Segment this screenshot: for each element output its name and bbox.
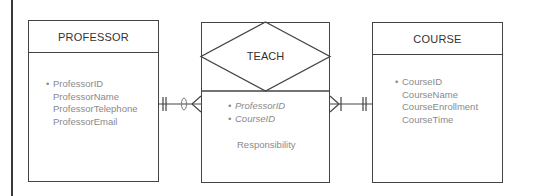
- primary-key-bullet: •: [228, 100, 231, 113]
- attribute-item: • ProfessorID: [235, 100, 285, 113]
- crows-foot-icon: [192, 96, 201, 104]
- relationship-teach-attributes: • ProfessorID • CourseID: [235, 100, 285, 125]
- relationship-teach-title: TEACH: [201, 50, 330, 62]
- crows-foot-icon: [330, 96, 339, 104]
- crows-foot-icon: [330, 104, 339, 112]
- diagram-lines: [0, 0, 540, 196]
- attribute-item: • CourseID: [235, 113, 285, 126]
- relationship-attribute-responsibility: Responsibility: [237, 139, 296, 150]
- crows-foot-icon: [192, 104, 201, 112]
- primary-key-bullet: •: [228, 113, 231, 126]
